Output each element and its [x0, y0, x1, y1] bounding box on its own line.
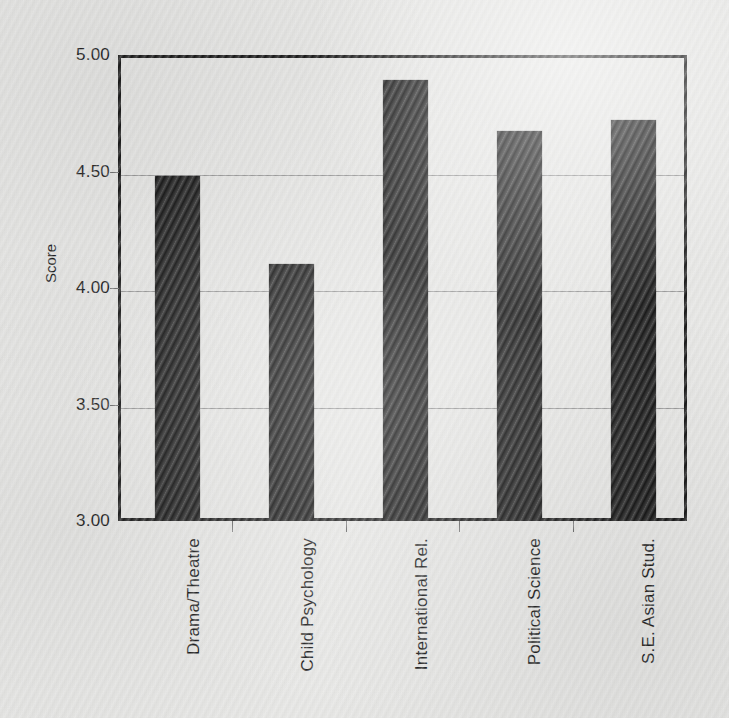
x-tick-mark: [232, 521, 233, 532]
y-tick-mark: [110, 405, 119, 406]
x-tick-label: International Rel.: [412, 538, 432, 670]
x-tick-label: Child Psychology: [298, 538, 318, 672]
y-tick-mark: [110, 288, 119, 289]
y-tick-mark: [110, 172, 119, 173]
y-tick-label: 3.50: [40, 395, 110, 415]
bar: [269, 264, 314, 518]
y-tick-label: 3.00: [40, 511, 110, 531]
x-tick-mark: [346, 521, 347, 532]
bar: [155, 176, 200, 519]
x-tick-mark: [459, 521, 460, 532]
plot-area: [118, 55, 687, 521]
scanned-page: Score 3.003.504.004.505.00 Drama/Theatre…: [0, 0, 729, 718]
x-tick-mark: [573, 521, 574, 532]
y-tick-label: 4.50: [40, 162, 110, 182]
bar: [383, 80, 428, 518]
y-tick-label: 5.00: [40, 45, 110, 65]
y-tick-label: 4.00: [40, 278, 110, 298]
bar-chart: Score 3.003.504.004.505.00 Drama/Theatre…: [0, 0, 729, 718]
bar: [611, 120, 656, 518]
x-tick-label: Drama/Theatre: [184, 538, 204, 655]
bar: [497, 131, 542, 518]
x-tick-label: Political Science: [525, 538, 545, 665]
y-axis-ticks: 3.003.504.004.505.00: [28, 0, 110, 718]
x-tick-label: S.E. Asian Stud.: [639, 538, 659, 664]
